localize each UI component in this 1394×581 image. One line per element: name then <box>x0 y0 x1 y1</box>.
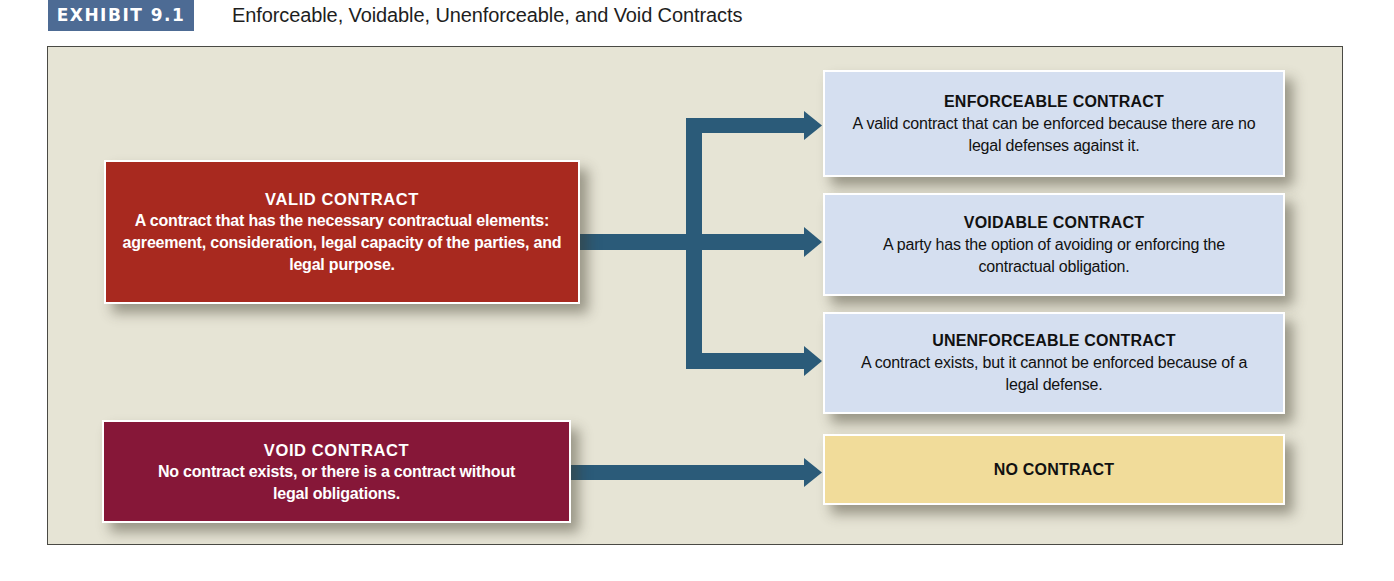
enforceable-contract-description: A valid contract that can be enforced be… <box>825 113 1283 157</box>
void-contract-box: VOID CONTRACT No contract exists, or the… <box>102 420 571 523</box>
enforceable-contract-title: ENFORCEABLE CONTRACT <box>944 91 1164 113</box>
enforceable-contract-box: ENFORCEABLE CONTRACT A valid contract th… <box>823 70 1285 177</box>
void-contract-title: VOID CONTRACT <box>264 439 409 461</box>
void-contract-description: No contract exists, or there is a contra… <box>104 461 569 505</box>
unenforceable-contract-box: UNENFORCEABLE CONTRACT A contract exists… <box>823 312 1285 414</box>
no-contract-title: NO CONTRACT <box>994 459 1114 481</box>
voidable-contract-title: VOIDABLE CONTRACT <box>964 212 1144 234</box>
exhibit-title: Enforceable, Voidable, Unenforceable, an… <box>232 2 742 28</box>
voidable-contract-description: A party has the option of avoiding or en… <box>825 234 1283 278</box>
exhibit-badge: EXHIBIT 9.1 <box>48 0 194 31</box>
valid-contract-box: VALID CONTRACT A contract that has the n… <box>104 160 580 304</box>
voidable-contract-box: VOIDABLE CONTRACT A party has the option… <box>823 193 1285 296</box>
unenforceable-contract-title: UNENFORCEABLE CONTRACT <box>932 330 1176 352</box>
valid-contract-title: VALID CONTRACT <box>265 188 419 210</box>
no-contract-box: NO CONTRACT <box>823 434 1285 505</box>
exhibit-figure: EXHIBIT 9.1 Enforceable, Voidable, Unenf… <box>0 0 1394 581</box>
valid-contract-description: A contract that has the necessary contra… <box>106 210 578 276</box>
unenforceable-contract-description: A contract exists, but it cannot be enfo… <box>825 352 1283 396</box>
